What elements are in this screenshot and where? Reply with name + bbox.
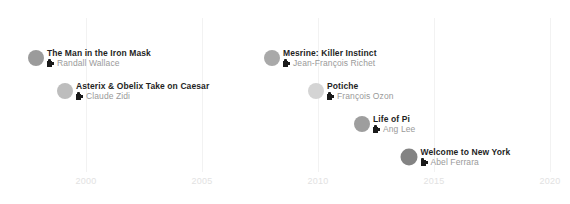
axis-tick-label: 2015	[423, 176, 444, 186]
axis-tick-label: 2020	[539, 176, 560, 186]
movie-camera-icon	[373, 125, 380, 133]
data-point-marker[interactable]	[57, 83, 73, 99]
axis-tick-label: 2010	[307, 176, 328, 186]
film-title: Life of Pi	[373, 115, 415, 124]
gridline-2020	[550, 18, 551, 172]
data-point-label-group: Welcome to New YorkAbel Ferrara	[421, 148, 511, 167]
director-name: Ang Lee	[383, 125, 415, 134]
director-name: Abel Ferrara	[431, 158, 479, 167]
film-title: Asterix & Obelix Take on Caesar	[76, 82, 209, 91]
data-point-label-group: Mesrine: Killer InstinctJean-François Ri…	[283, 49, 377, 68]
director-row: Randall Wallace	[47, 59, 151, 68]
film-title: Potiche	[327, 82, 394, 91]
director-name: Jean-François Richet	[293, 59, 375, 68]
data-point-label-group: Life of PiAng Lee	[373, 115, 415, 134]
director-name: François Ozon	[337, 92, 394, 101]
director-name: Randall Wallace	[57, 59, 120, 68]
film-title: Mesrine: Killer Instinct	[283, 49, 377, 58]
data-point-marker[interactable]	[28, 50, 44, 66]
data-point-label-group: The Man in the Iron MaskRandall Wallace	[47, 49, 151, 68]
film-title: Welcome to New York	[421, 148, 511, 157]
director-name: Claude Zidi	[86, 92, 130, 101]
movie-camera-icon	[283, 59, 290, 67]
director-row: Ang Lee	[373, 125, 415, 134]
director-row: Abel Ferrara	[421, 158, 511, 167]
film-title: The Man in the Iron Mask	[47, 49, 151, 58]
timeline-chart: 20002005201020152020 The Man in the Iron…	[0, 0, 570, 204]
data-point-marker[interactable]	[308, 83, 324, 99]
director-row: Jean-François Richet	[283, 59, 377, 68]
movie-camera-icon	[76, 92, 83, 100]
movie-camera-icon	[327, 92, 334, 100]
director-row: Claude Zidi	[76, 92, 209, 101]
axis-tick-label: 2005	[191, 176, 212, 186]
data-point-label-group: PoticheFrançois Ozon	[327, 82, 394, 101]
director-row: François Ozon	[327, 92, 394, 101]
data-point-label-group: Asterix & Obelix Take on CaesarClaude Zi…	[76, 82, 209, 101]
movie-camera-icon	[47, 59, 54, 67]
movie-camera-icon	[421, 158, 428, 166]
data-point-marker[interactable]	[264, 50, 280, 66]
data-point-marker[interactable]	[354, 116, 370, 132]
data-point-marker[interactable]	[401, 149, 418, 166]
axis-tick-label: 2000	[75, 176, 96, 186]
